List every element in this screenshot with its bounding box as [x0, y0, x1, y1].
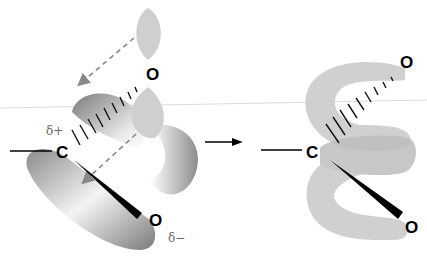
- carbon-atom-label: C: [56, 143, 68, 162]
- carbon-atom-label-right: C: [306, 143, 318, 162]
- dashed-arrow-upper: [82, 38, 134, 82]
- delta-minus-label: δ−: [168, 231, 185, 245]
- pi-star-lower-lobe: [26, 149, 155, 250]
- oxygen-top-label: O: [146, 65, 159, 84]
- right-structure: C O O: [261, 53, 418, 240]
- oxygen-bottom-label-right: O: [405, 218, 418, 237]
- dashed-arrow-lower: [86, 134, 136, 180]
- scan-line: [0, 100, 427, 108]
- oxygen-top-label-right: O: [400, 53, 413, 72]
- oxygen-p-orbital-upper: [136, 8, 161, 60]
- left-structure: C O O δ+ δ−: [10, 8, 198, 250]
- orbital-diagram: C O O δ+ δ− C O: [0, 0, 427, 272]
- delta-plus-label: δ+: [46, 124, 63, 138]
- oxygen-bottom-label: O: [149, 211, 162, 230]
